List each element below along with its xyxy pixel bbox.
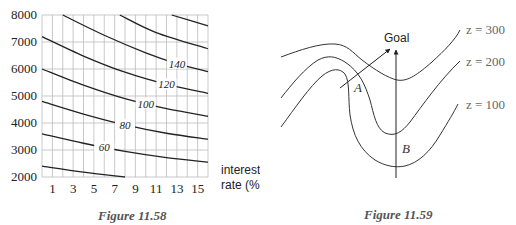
- y-tick-label: 8000: [11, 7, 37, 22]
- y-tick-label: 3000: [11, 142, 37, 157]
- contour-label-120: 120: [158, 78, 175, 90]
- figure-11-59-diagram: Goal A B z = 300 z = 200 z = 100 Figure …: [260, 0, 516, 225]
- x-tick-label: 9: [132, 181, 139, 196]
- y-tick-label: 2000: [11, 169, 37, 184]
- figure-11-58-contour-chart: 6080100120140 20003000400050006000700080…: [0, 0, 260, 225]
- x-axis-ticks: 13579111315: [49, 181, 204, 196]
- x-tick-label: 7: [111, 181, 118, 196]
- x-tick-label: 3: [70, 181, 77, 196]
- y-tick-label: 7000: [11, 34, 37, 49]
- figure-caption: Figure 11.58: [97, 208, 167, 223]
- x-tick-label: 11: [150, 181, 163, 196]
- x-tick-label: 1: [49, 181, 56, 196]
- contour-z100: [281, 70, 458, 167]
- y-tick-label: 5000: [11, 88, 37, 103]
- x-axis-label-line2: rate (%): [221, 178, 260, 192]
- point-b-label: B: [402, 141, 410, 156]
- z200-label: z = 200: [466, 54, 505, 69]
- gradient-arrow-a: [340, 49, 390, 88]
- grid: [42, 15, 208, 177]
- y-axis-ticks: 2000300040005000600070008000: [11, 7, 37, 184]
- point-a-label: A: [353, 80, 362, 95]
- x-tick-label: 5: [91, 181, 98, 196]
- contour-label-60: 60: [99, 141, 111, 153]
- x-axis-label-line1: interest: [221, 163, 260, 177]
- y-tick-label: 6000: [11, 61, 37, 76]
- figure-caption: Figure 11.59: [363, 207, 433, 222]
- x-tick-label: 15: [191, 181, 204, 196]
- contour-label-100: 100: [138, 98, 155, 110]
- y-tick-label: 4000: [11, 115, 37, 130]
- z100-label: z = 100: [466, 97, 505, 112]
- goal-label: Goal: [384, 31, 409, 45]
- z300-label: z = 300: [466, 22, 505, 37]
- contour-label-140: 140: [169, 58, 186, 70]
- contour-line-160: [120, 15, 208, 49]
- contour-z300: [281, 30, 460, 80]
- contour-label-80: 80: [120, 119, 132, 131]
- contour-z200: [281, 57, 460, 135]
- x-tick-label: 13: [170, 181, 183, 196]
